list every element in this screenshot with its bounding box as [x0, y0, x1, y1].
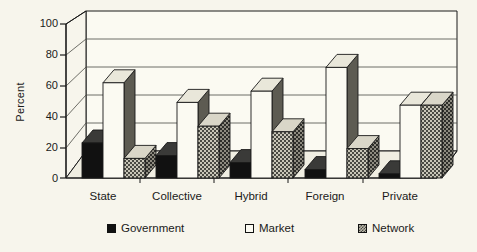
x-category-label-collective: Collective	[152, 190, 202, 202]
x-category-label-hybrid: Hybrid	[234, 190, 267, 202]
x-category-label-private: Private	[382, 190, 418, 202]
bar-hybrid-network	[272, 119, 304, 178]
bar-collective-network	[198, 113, 230, 178]
legend-label-market: Market	[259, 222, 294, 234]
legend-item-government: Government	[107, 222, 184, 234]
legend-swatch-network-icon	[358, 224, 367, 233]
legend-label-network: Network	[372, 222, 414, 234]
legend-swatch-government-icon	[107, 224, 116, 233]
bar-chart: Percent 100 80 60 40 20 0	[0, 0, 477, 252]
x-category-label-state: State	[90, 190, 117, 202]
bar-private-network	[421, 92, 453, 178]
legend-item-market: Market	[245, 222, 294, 234]
x-axis	[66, 178, 437, 183]
y-axis	[60, 24, 66, 178]
chart-legend: Government Market Network	[0, 222, 477, 242]
legend-label-government: Government	[121, 222, 184, 234]
x-category-label-foreign: Foreign	[306, 190, 345, 202]
legend-swatch-market-icon	[245, 224, 254, 233]
plot-area	[0, 0, 477, 252]
legend-item-network: Network	[358, 222, 414, 234]
